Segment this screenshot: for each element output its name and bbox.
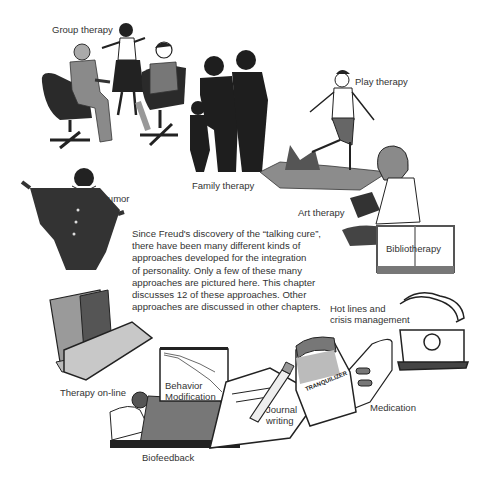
label-family-therapy: Family therapy xyxy=(192,180,254,191)
paragraph-line: discusses 12 of these approaches. Other xyxy=(132,289,392,301)
group-therapy-illustration xyxy=(42,23,186,148)
label-hot-lines-line2: crisis management xyxy=(330,314,410,325)
paragraph-line: approaches are pictured here. This chapt… xyxy=(132,277,392,289)
label-behavior-line2: Modification xyxy=(165,391,216,402)
label-behavior-modification: Behavior Modification xyxy=(165,380,216,402)
paragraph-line: approaches developed for the integration xyxy=(132,252,392,264)
description-paragraph: Since Freud's discovery of the “talking … xyxy=(132,228,392,313)
paragraph-line: Since Freud's discovery of the “talking … xyxy=(132,228,392,240)
paragraph-line: of personality. Only a few of these many xyxy=(132,265,392,277)
paragraph-line: approaches are discussed in other chapte… xyxy=(132,301,392,313)
label-behavior-line1: Behavior xyxy=(165,380,216,391)
label-journal-writing: Journal writing xyxy=(266,404,297,426)
label-play-therapy: Play therapy xyxy=(355,76,408,87)
label-humor: Humor xyxy=(101,193,130,204)
label-group-therapy: Group therapy xyxy=(52,24,113,35)
label-art-therapy: Art therapy xyxy=(298,207,344,218)
family-therapy-illustration xyxy=(190,50,268,172)
label-journal-line2: writing xyxy=(266,415,297,426)
paragraph-line: there have been many different kinds of xyxy=(132,240,392,252)
label-journal-line1: Journal xyxy=(266,404,297,415)
label-biofeedback: Biofeedback xyxy=(142,452,194,463)
humor-clown-illustration xyxy=(22,168,124,270)
label-bibliotherapy: Bibliotherapy xyxy=(386,243,441,254)
play-therapy-illustration xyxy=(260,70,388,190)
label-medication: Medication xyxy=(370,402,416,413)
label-therapy-online: Therapy on-line xyxy=(60,387,126,398)
